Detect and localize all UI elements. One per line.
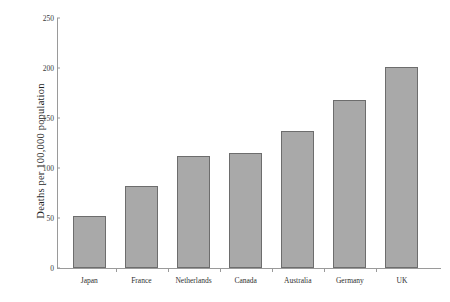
bar-group [229,153,262,268]
bar-group [73,216,106,268]
x-axis-line [57,268,441,269]
x-tick-label: Canada [234,276,257,285]
x-tick-label: Japan [81,276,98,285]
y-tick-label: 200 [43,64,57,73]
y-tick: 0 [50,264,57,273]
y-tick: 250 [43,14,57,23]
y-tick-label: 100 [43,164,57,173]
y-tick: 100 [43,164,57,173]
bar-australia [281,131,314,268]
bar-group [333,100,366,268]
bar-group [385,67,418,268]
bar-canada [229,153,262,268]
bar-chart: Deaths per 100,000 population 0501001502… [0,0,450,302]
y-tick-label: 150 [43,114,57,123]
bar-group [281,131,314,268]
bar-netherlands [177,156,210,268]
bars-layer [57,18,440,268]
bar-france [125,186,158,268]
x-tick-label: Netherlands [175,276,211,285]
bar-germany [333,100,366,268]
x-tick-mark [376,269,377,272]
y-tick-label: 250 [43,14,57,23]
x-tick-mark [220,269,221,272]
bar-group [177,156,210,268]
x-tick-label: Germany [336,276,364,285]
y-tick-label: 0 [50,264,57,273]
x-tick-mark [168,269,169,272]
y-axis-title: Deaths per 100,000 population [28,0,52,302]
x-tick-label: Australia [284,276,312,285]
bar-group [125,186,158,268]
x-tick-mark [272,269,273,272]
x-tick-mark [116,269,117,272]
bar-uk [385,67,418,268]
y-tick: 150 [43,114,57,123]
x-tick-mark [324,269,325,272]
y-tick-label: 50 [47,214,58,223]
y-tick: 200 [43,64,57,73]
x-tick-label: France [131,276,151,285]
x-tick-label: UK [397,276,408,285]
y-tick: 50 [47,214,58,223]
plot-area: 050100150200250 [57,18,440,268]
bar-japan [73,216,106,268]
